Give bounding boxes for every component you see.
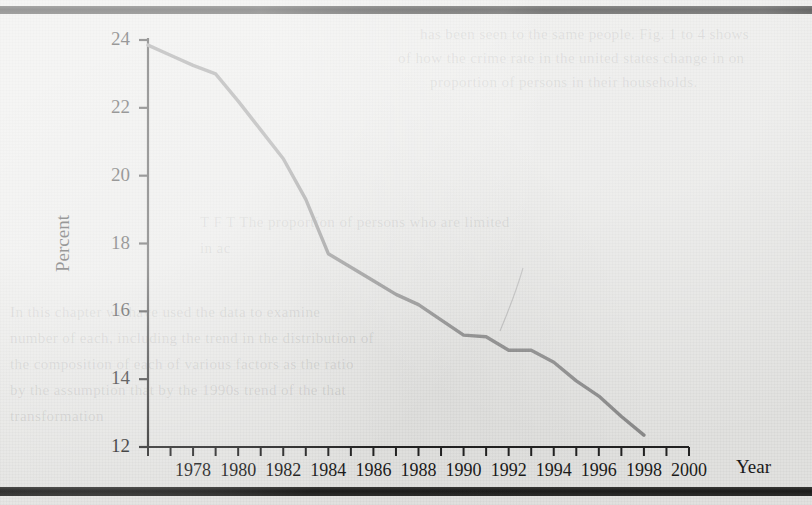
x-tick-label: 1982 xyxy=(260,460,306,481)
y-tick-label: 12 xyxy=(96,435,130,457)
x-tick-label: 1998 xyxy=(621,460,667,481)
x-axis-ticks xyxy=(148,447,689,456)
y-tick-label: 24 xyxy=(96,28,130,50)
x-tick-label: 1986 xyxy=(350,460,396,481)
scanned-page: has been seen to the same people. Fig. 1… xyxy=(0,0,812,505)
y-axis-ticks xyxy=(139,40,148,447)
x-tick-label: 1990 xyxy=(441,460,487,481)
data-series-line xyxy=(148,45,644,435)
x-tick-label: 1996 xyxy=(576,460,622,481)
x-tick-label: 1978 xyxy=(170,460,216,481)
scan-scratch-artifact xyxy=(500,268,523,331)
x-tick-label: 2000 xyxy=(666,460,712,481)
y-tick-label: 20 xyxy=(96,164,130,186)
y-tick-label: 22 xyxy=(96,96,130,118)
page-rule-top xyxy=(0,6,812,14)
x-tick-label: 1984 xyxy=(305,460,351,481)
x-axis-title: Year xyxy=(736,456,771,478)
x-tick-label: 1992 xyxy=(486,460,532,481)
y-tick-label: 14 xyxy=(96,367,130,389)
x-tick-label: 1980 xyxy=(215,460,261,481)
x-tick-label: 1994 xyxy=(531,460,577,481)
y-tick-label: 18 xyxy=(96,232,130,254)
y-tick-label: 16 xyxy=(96,299,130,321)
page-rule-bottom xyxy=(0,487,812,496)
y-axis-title: Percent xyxy=(52,152,74,272)
x-tick-label: 1988 xyxy=(396,460,442,481)
